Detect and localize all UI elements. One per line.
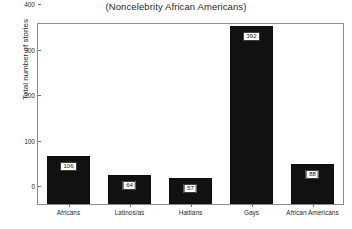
bar-group: 57 xyxy=(169,24,213,204)
bar[interactable]: 392 xyxy=(230,26,274,204)
y-axis-tick-label: 400 xyxy=(24,1,35,8)
y-axis-tick-label: 200 xyxy=(24,92,35,99)
chart-figure: (Noncelebrity African Americans) Total n… xyxy=(0,0,352,229)
x-axis-tick-mark xyxy=(69,204,70,207)
plot-area: 0100200300400106Africans64Latinos/as57Ha… xyxy=(38,24,343,204)
bar-value-label: 64 xyxy=(123,181,136,190)
y-axis-tick: 300 xyxy=(24,41,38,59)
bar-value-label: 392 xyxy=(243,32,259,41)
x-axis-tick-mark xyxy=(191,204,192,207)
y-axis-tick: 100 xyxy=(24,132,38,150)
bar-group: 392 xyxy=(230,24,274,204)
chart-title: (Noncelebrity African Americans) xyxy=(0,1,352,12)
y-axis-tick-label: 100 xyxy=(24,138,35,145)
bar[interactable]: 106 xyxy=(47,156,91,204)
y-axis-tick-mark xyxy=(38,4,41,5)
x-axis-tick-mark xyxy=(252,204,253,207)
bar[interactable]: 88 xyxy=(291,164,335,204)
y-axis-tick: 0 xyxy=(31,177,38,195)
bar[interactable]: 57 xyxy=(169,178,213,204)
bar-value-label: 88 xyxy=(306,170,319,179)
y-axis-tick-label: 300 xyxy=(24,47,35,54)
bar-value-label: 57 xyxy=(184,184,197,193)
y-axis-tick-mark xyxy=(38,141,41,142)
x-axis-tick-label: Latinos/as xyxy=(115,209,145,216)
bar-group: 64 xyxy=(108,24,152,204)
x-axis-tick-label: Haitians xyxy=(179,209,202,216)
x-axis-tick-mark xyxy=(130,204,131,207)
y-axis-tick-mark xyxy=(38,95,41,96)
y-axis-tick: 400 xyxy=(24,0,38,13)
y-axis-tick-mark xyxy=(38,50,41,51)
y-axis-label: Total number of stories xyxy=(21,0,30,140)
bar-group: 88 xyxy=(291,24,335,204)
x-axis-tick-label: Africans xyxy=(57,209,80,216)
y-axis-tick-mark xyxy=(38,186,41,187)
bar-value-label: 106 xyxy=(60,162,76,171)
plot-frame: 0100200300400106Africans64Latinos/as57Ha… xyxy=(37,23,344,205)
x-axis-tick-label: African Americans xyxy=(286,209,338,216)
x-axis-tick-mark xyxy=(313,204,314,207)
bar[interactable]: 64 xyxy=(108,175,152,204)
bar-group: 106 xyxy=(47,24,91,204)
y-axis-tick-label: 0 xyxy=(31,183,35,190)
x-axis-tick-label: Gays xyxy=(244,209,259,216)
y-axis-tick: 200 xyxy=(24,86,38,104)
